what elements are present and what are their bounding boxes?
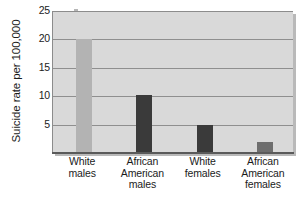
y-axis-tick-label: 15	[26, 61, 50, 73]
x-axis-category-label-line: African	[233, 156, 293, 168]
x-axis-category-label-line: females	[173, 168, 233, 180]
plot-area	[52, 11, 293, 153]
x-axis-category-label: Whitemales	[52, 156, 112, 179]
x-axis-category-label-line: females	[233, 179, 293, 191]
bar-chart-figure: Suicide rate per 100,000 510152025 White…	[0, 0, 303, 201]
y-axis-tick-label: 5	[26, 118, 50, 130]
x-axis-category-labels: WhitemalesAfricanAmericanmalesWhitefemal…	[52, 156, 293, 201]
x-axis-category-label-line: males	[52, 168, 112, 180]
x-axis-category-label-line: White	[52, 156, 112, 168]
x-axis-category-label: AfricanAmericanmales	[112, 156, 172, 191]
y-axis-tick-label: 10	[26, 89, 50, 101]
y-axis-tick-label: 20	[26, 32, 50, 44]
y-axis-title-container: Suicide rate per 100,000	[6, 8, 26, 154]
y-axis-line	[52, 11, 53, 153]
x-axis-category-label: Whitefemales	[173, 156, 233, 179]
x-axis-category-label: AfricanAmericanfemales	[233, 156, 293, 191]
y-axis-title: Suicide rate per 100,000	[10, 20, 22, 143]
bar	[76, 39, 92, 153]
x-axis-category-label-line: African	[112, 156, 172, 168]
bar	[136, 95, 152, 154]
x-axis-category-label-line: White	[173, 156, 233, 168]
x-axis-line	[52, 152, 294, 154]
y-axis-tick-labels: 510152025	[26, 0, 50, 201]
y-axis-tick-label: 25	[26, 4, 50, 16]
bar	[197, 125, 213, 153]
x-axis-category-label-line: males	[112, 179, 172, 191]
